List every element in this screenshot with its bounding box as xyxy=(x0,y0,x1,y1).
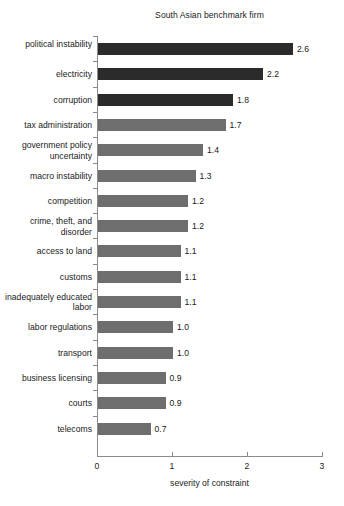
category-axis-tick xyxy=(93,188,97,189)
bar xyxy=(98,372,166,384)
bar-row: macro instability1.3 xyxy=(0,163,344,188)
category-label: courts xyxy=(0,398,92,408)
bar-value-label: 1.0 xyxy=(177,347,189,359)
category-label: tax administration xyxy=(0,120,92,130)
category-axis-tick xyxy=(93,264,97,265)
bar-row: competition1.2 xyxy=(0,188,344,213)
bar-row: transport1.0 xyxy=(0,340,344,365)
bar-value-label: 1.3 xyxy=(200,170,212,182)
category-label: business licensing xyxy=(0,373,92,383)
bar-value-label: 1.2 xyxy=(192,220,204,232)
bar xyxy=(98,144,203,156)
category-axis-tick xyxy=(93,314,97,315)
bar xyxy=(98,220,188,232)
category-axis-tick xyxy=(93,365,97,366)
bar-value-label: 0.7 xyxy=(155,423,167,435)
value-axis-tick-label: 2 xyxy=(237,461,257,472)
bar-value-label: 1.8 xyxy=(237,94,249,106)
bar-value-label: 1.1 xyxy=(185,245,197,257)
category-axis-tick xyxy=(93,289,97,290)
category-label: competition xyxy=(0,196,92,206)
bar-row: political instability2.6 xyxy=(0,36,344,61)
category-label: transport xyxy=(0,348,92,358)
value-axis-tick-label: 1 xyxy=(162,461,182,472)
bar-value-label: 1.0 xyxy=(177,321,189,333)
category-label: customs xyxy=(0,272,92,282)
bar-value-label: 0.9 xyxy=(170,372,182,384)
bar xyxy=(98,271,181,283)
bar xyxy=(98,119,226,131)
category-axis-tick xyxy=(93,238,97,239)
category-label: inadequately educated labor xyxy=(0,292,92,313)
bar xyxy=(98,94,233,106)
bar xyxy=(98,195,188,207)
bar-value-label: 1.1 xyxy=(185,296,197,308)
value-axis-tick xyxy=(172,452,173,457)
category-axis-tick xyxy=(93,36,97,37)
value-axis-line xyxy=(97,456,323,457)
category-axis-tick xyxy=(93,340,97,341)
category-axis-tick xyxy=(93,416,97,417)
bar-value-label: 1.1 xyxy=(185,271,197,283)
chart-title: South Asian benchmark firm xyxy=(97,10,322,21)
bar-value-label: 1.2 xyxy=(192,195,204,207)
category-label: corruption xyxy=(0,95,92,105)
bar-value-label: 2.6 xyxy=(297,43,309,55)
category-axis-tick xyxy=(93,112,97,113)
category-axis-tick xyxy=(93,61,97,62)
category-axis-tick xyxy=(93,137,97,138)
category-axis-tick xyxy=(93,163,97,164)
bar-row: customs1.1 xyxy=(0,264,344,289)
category-label: macro instability xyxy=(0,171,92,181)
bar-row: telecoms0.7 xyxy=(0,416,344,441)
bar xyxy=(98,245,181,257)
value-axis-tick xyxy=(247,452,248,457)
bar-value-label: 1.4 xyxy=(207,144,219,156)
bar xyxy=(98,423,151,435)
bar xyxy=(98,43,293,55)
value-axis-tick xyxy=(97,452,98,457)
value-axis-tick xyxy=(322,452,323,457)
bar xyxy=(98,68,263,80)
category-label: government policy uncertainty xyxy=(0,140,92,161)
value-axis-tick-label: 3 xyxy=(312,461,332,472)
value-axis-label: severity of constraint xyxy=(97,478,322,489)
bar-row: electricity2.2 xyxy=(0,61,344,86)
bar-row: courts0.9 xyxy=(0,390,344,415)
bar-row: tax administration1.7 xyxy=(0,112,344,137)
bar-value-label: 2.2 xyxy=(267,68,279,80)
category-label: telecoms xyxy=(0,424,92,434)
category-label: crime, theft, and disorder xyxy=(0,216,92,237)
value-axis-tick-label: 0 xyxy=(87,461,107,472)
category-label: labor regulations xyxy=(0,322,92,332)
bar-row: business licensing0.9 xyxy=(0,365,344,390)
bar-value-label: 1.7 xyxy=(230,119,242,131)
category-label: electricity xyxy=(0,69,92,79)
bar-chart-figure: South Asian benchmark firm political ins… xyxy=(0,0,344,506)
bar-row: government policy uncertainty1.4 xyxy=(0,137,344,162)
bar xyxy=(98,347,173,359)
category-label: access to land xyxy=(0,246,92,256)
bar-row: crime, theft, and disorder1.2 xyxy=(0,213,344,238)
bar xyxy=(98,321,173,333)
bar-row: labor regulations1.0 xyxy=(0,314,344,339)
category-axis-tick xyxy=(93,87,97,88)
bar xyxy=(98,397,166,409)
bar-row: corruption1.8 xyxy=(0,87,344,112)
category-axis-tick xyxy=(93,213,97,214)
bar-value-label: 0.9 xyxy=(170,397,182,409)
bar xyxy=(98,296,181,308)
category-label: political instability xyxy=(0,39,92,49)
bar-row: inadequately educated labor1.1 xyxy=(0,289,344,314)
category-axis-tick xyxy=(93,390,97,391)
bar-row: access to land1.1 xyxy=(0,238,344,263)
bar xyxy=(98,170,196,182)
